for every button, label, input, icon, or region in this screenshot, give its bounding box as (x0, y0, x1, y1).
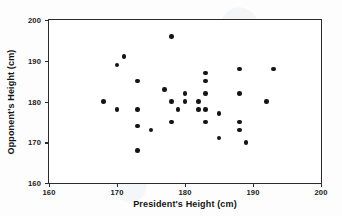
y-tick-label: 160 (28, 179, 41, 188)
y-tick-label: 170 (28, 138, 41, 147)
data-point (135, 79, 140, 84)
x-tick-label: 200 (315, 188, 328, 197)
x-tick-mark (321, 183, 322, 187)
y-tick-label: 180 (28, 97, 41, 106)
y-tick-mark (45, 102, 49, 103)
y-tick-mark (45, 142, 49, 143)
scatter-plot-figure: Opponent's Height (cm) 160170180190200 1… (0, 0, 342, 216)
data-point (203, 79, 208, 84)
y-tick-mark (45, 61, 49, 62)
data-point (203, 71, 208, 76)
data-point (135, 148, 140, 153)
data-point (203, 91, 208, 96)
x-tick-mark (117, 183, 118, 187)
x-tick-mark (253, 183, 254, 187)
data-point (101, 99, 106, 104)
data-point (264, 99, 269, 104)
data-point (217, 111, 222, 116)
x-tick-label: 180 (179, 188, 192, 197)
y-tick-label: 200 (28, 16, 41, 25)
data-point (169, 99, 174, 104)
data-point (169, 34, 174, 39)
data-point (162, 87, 167, 92)
data-point (115, 107, 120, 112)
data-point (196, 99, 201, 104)
data-point (183, 91, 188, 96)
data-point (149, 128, 154, 133)
data-point (135, 124, 140, 129)
x-tick-mark (49, 183, 50, 187)
plot-area: 160170180190200 160170180190200 (48, 19, 322, 184)
y-tick-mark (45, 183, 49, 184)
x-tick-label: 170 (111, 188, 124, 197)
y-tick-mark (45, 20, 49, 21)
x-tick-mark (185, 183, 186, 187)
data-point (237, 67, 242, 72)
data-point (176, 107, 181, 112)
x-tick-label: 190 (247, 188, 260, 197)
data-point (244, 140, 249, 145)
y-tick-label: 190 (28, 56, 41, 65)
y-axis-title: Opponent's Height (cm) (5, 19, 17, 184)
x-axis-title: President's Height (cm) (48, 199, 322, 209)
data-point (217, 136, 222, 141)
data-point (135, 107, 140, 112)
data-point (237, 120, 242, 125)
data-point (237, 91, 242, 96)
data-point (203, 120, 208, 125)
y-axis-title-label: Opponent's Height (cm) (6, 49, 16, 154)
x-tick-label: 160 (43, 188, 56, 197)
data-point (115, 63, 120, 68)
data-point (169, 120, 174, 125)
data-point (196, 107, 201, 112)
data-point (271, 67, 276, 72)
data-point (183, 99, 188, 104)
data-point (203, 107, 208, 112)
data-point (122, 54, 127, 59)
data-point (237, 128, 242, 133)
